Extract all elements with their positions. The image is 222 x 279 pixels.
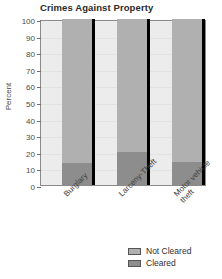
bar-motor-vehicle-theft[interactable] xyxy=(172,19,202,185)
y-axis-label: Percent xyxy=(4,72,13,122)
bar-burglary[interactable] xyxy=(62,19,92,185)
y-tick-label: 20 xyxy=(26,149,35,158)
chart-title: Crimes Against Property xyxy=(40,2,153,13)
y-tick-mark xyxy=(37,71,41,72)
y-tick-label: 0 xyxy=(31,183,35,192)
chart-legend: Not ClearedCleared xyxy=(128,246,191,270)
y-tick-mark xyxy=(37,54,41,55)
y-tick-label: 70 xyxy=(26,66,35,75)
y-tick-label: 100 xyxy=(22,17,35,26)
y-tick-label: 60 xyxy=(26,83,35,92)
plot-area: 0102030405060708090100 xyxy=(40,20,206,186)
bar-segment-not-cleared[interactable] xyxy=(62,19,92,163)
legend-swatch-icon xyxy=(128,248,141,255)
y-tick-mark xyxy=(37,38,41,39)
legend-label: Cleared xyxy=(146,258,176,268)
y-tick-mark xyxy=(37,121,41,122)
legend-item[interactable]: Not Cleared xyxy=(128,246,191,256)
legend-item[interactable]: Cleared xyxy=(128,258,191,268)
y-tick-mark xyxy=(37,21,41,22)
y-tick-mark xyxy=(37,87,41,88)
y-tick-label: 10 xyxy=(26,166,35,175)
y-tick-label: 30 xyxy=(26,133,35,142)
y-tick-label: 80 xyxy=(26,50,35,59)
y-tick-mark xyxy=(37,187,41,188)
legend-label: Not Cleared xyxy=(146,246,191,256)
y-tick-label: 90 xyxy=(26,33,35,42)
y-tick-mark xyxy=(37,170,41,171)
bar-segment-not-cleared[interactable] xyxy=(172,19,202,162)
legend-swatch-icon xyxy=(128,260,141,267)
bar-segment-not-cleared[interactable] xyxy=(117,19,147,152)
y-tick-label: 40 xyxy=(26,116,35,125)
bar-larceny-theft[interactable] xyxy=(117,19,147,185)
y-tick-label: 50 xyxy=(26,100,35,109)
y-tick-mark xyxy=(37,104,41,105)
y-tick-mark xyxy=(37,154,41,155)
bar-shadow xyxy=(92,19,95,185)
y-tick-mark xyxy=(37,137,41,138)
